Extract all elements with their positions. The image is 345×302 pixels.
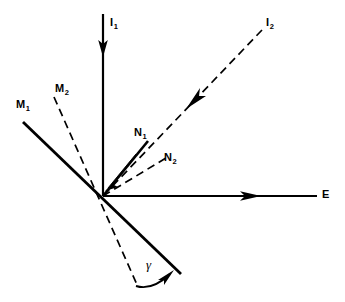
gamma-arc-arrowhead	[158, 270, 174, 285]
vector-i1	[98, 14, 108, 196]
vector-i2-line	[103, 30, 262, 196]
label-m2: M2	[55, 83, 69, 94]
vector-e	[103, 191, 317, 201]
diagram-canvas	[0, 0, 345, 302]
vector-n1	[103, 141, 148, 196]
gamma-angle-arc	[136, 270, 174, 287]
vector-i2	[103, 30, 262, 196]
label-n1: N1	[134, 127, 147, 138]
label-m1: M1	[16, 99, 30, 110]
vector-n1-inner-line	[108, 154, 136, 188]
vector-diagram-figure: I1 I2 M1 M2 N1 N2 E γ	[0, 0, 345, 302]
label-i2: I2	[266, 17, 274, 28]
label-i1: I1	[110, 17, 118, 28]
label-e: E	[322, 189, 330, 200]
label-gamma: γ	[146, 258, 151, 271]
label-n2: N2	[164, 152, 177, 163]
